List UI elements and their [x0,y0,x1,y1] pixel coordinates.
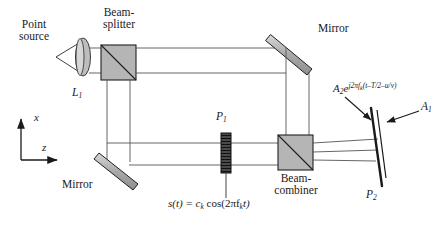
lens-label: L1 [72,86,82,100]
acousto-optic-cell-P1 [221,133,231,198]
axis-indicator [21,119,57,160]
beam-bottom-arm [107,143,278,165]
point-source-line1: Point [22,18,46,30]
arrow-A1-to-P2 [387,111,419,122]
combiner-line2: combiner [274,184,317,196]
mirror-top-right [266,35,313,76]
mirror-bottom-label: Mirror [62,178,93,190]
beamsplitter-line2: splitter [103,18,135,30]
beam-output [313,139,378,161]
optical-diagram: Point source L1 Beam- splitter Mirror Mi… [0,0,440,225]
axis-z-label: z [42,142,46,154]
field-equation: A2ej2πfk(t–T/2–u/v) [333,82,396,96]
combiner-line1: Beam- [281,172,312,184]
plate-P2 [371,108,386,186]
beamsplitter-line1: Beam- [104,6,135,18]
beam-combiner [278,135,313,170]
beam-top-arm [136,48,286,73]
cell-P1-label: P1 [216,110,227,124]
arrow-field-to-P2 [345,97,371,120]
point-source-label: Point source [6,18,62,42]
beam-left-vertical [107,80,130,162]
drive-signal-equation: s(t) = ck cos(2πfkt) [168,198,250,211]
beamsplitter [101,45,136,80]
point-source-line2: source [19,30,49,42]
plate-P2-label: P2 [366,188,377,202]
mirror-bottom-left [94,153,138,190]
mirror-top-label: Mirror [318,22,349,34]
beam-combiner-label: Beam- combiner [256,172,336,196]
beamsplitter-label: Beam- splitter [88,6,150,30]
axis-x-label: x [34,112,39,124]
aperture-A1-label: A1 [421,100,432,114]
lens-L1 [76,38,91,76]
annotation-arrows [345,97,419,122]
